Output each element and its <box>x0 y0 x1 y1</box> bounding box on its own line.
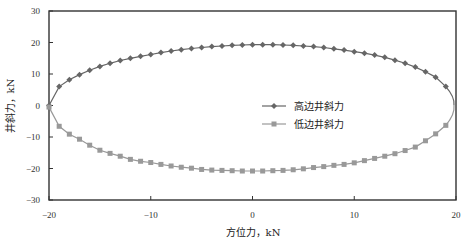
data-point-diamond <box>402 60 408 66</box>
x-tick-label: 0 <box>250 210 255 220</box>
x-tick-label: 20 <box>452 210 462 220</box>
data-point-diamond <box>341 47 347 53</box>
data-point-square <box>97 148 102 153</box>
data-point-square <box>352 160 357 165</box>
data-point-diamond <box>372 52 378 58</box>
y-tick-label: 0 <box>36 101 41 111</box>
data-point-square <box>362 158 367 163</box>
data-point-diamond <box>270 42 276 48</box>
data-point-square <box>209 168 214 173</box>
data-point-diamond <box>127 55 133 61</box>
chart: 3020100−10−20−30−20−1001020 高边井斜力低边井斜力 方… <box>0 0 467 250</box>
data-point-diamond <box>280 42 286 48</box>
data-point-square <box>179 165 184 170</box>
data-point-square <box>372 156 377 161</box>
data-point-square <box>331 163 336 168</box>
data-point-square <box>423 138 428 143</box>
data-point-diamond <box>199 45 205 51</box>
data-point-square <box>301 166 306 171</box>
legend-marker-diamond <box>271 103 277 109</box>
data-point-diamond <box>422 69 428 75</box>
legend-label: 低边井斜力 <box>294 118 344 130</box>
data-point-diamond <box>361 50 367 56</box>
data-point-diamond <box>158 50 164 56</box>
data-point-square <box>77 137 82 142</box>
data-point-diamond <box>351 49 357 55</box>
data-point-diamond <box>229 42 235 48</box>
data-point-square <box>169 163 174 168</box>
data-point-square <box>57 124 62 129</box>
data-point-diamond <box>117 57 123 63</box>
data-point-square <box>433 131 438 136</box>
data-point-diamond <box>148 51 154 57</box>
data-point-square <box>291 167 296 172</box>
data-point-square <box>87 143 92 148</box>
data-point-diamond <box>260 42 266 48</box>
series-layer <box>46 42 454 174</box>
data-point-diamond <box>239 42 245 48</box>
data-point-diamond <box>138 53 144 59</box>
data-point-diamond <box>300 43 306 49</box>
data-point-square <box>138 159 143 164</box>
data-point-square <box>199 167 204 172</box>
legend: 高边井斜力低边井斜力 <box>262 100 344 130</box>
data-point-square <box>311 165 316 170</box>
series-line-low-side <box>49 106 454 172</box>
axis-ticks: 3020100−10−20−30−20−1001020 <box>26 6 461 220</box>
y-tick-label: −30 <box>26 195 41 205</box>
data-point-square <box>281 168 286 173</box>
data-point-diamond <box>77 72 83 78</box>
x-tick-label: −10 <box>144 210 159 220</box>
data-point-diamond <box>311 44 317 50</box>
data-point-square <box>250 169 255 174</box>
legend-marker-square <box>272 122 277 127</box>
y-axis-label: 井斜力，kN <box>4 78 16 133</box>
data-point-diamond <box>168 48 174 54</box>
data-point-square <box>158 162 163 167</box>
data-point-square <box>413 145 418 150</box>
data-point-square <box>118 154 123 159</box>
data-point-square <box>67 132 72 137</box>
data-point-diamond <box>87 67 93 73</box>
data-point-diamond <box>188 45 194 51</box>
data-point-square <box>342 162 347 167</box>
data-point-square <box>148 160 153 165</box>
data-point-square <box>443 123 448 128</box>
data-point-square <box>47 105 52 110</box>
data-point-diamond <box>382 54 388 60</box>
data-point-square <box>108 151 113 156</box>
y-tick-label: −10 <box>26 132 41 142</box>
x-axis-label: 方位力，kN <box>226 226 281 238</box>
data-point-square <box>189 166 194 171</box>
data-point-square <box>321 164 326 169</box>
y-tick-label: 10 <box>31 69 41 79</box>
series-line-high-side <box>49 45 454 106</box>
data-point-square <box>240 169 245 174</box>
x-tick-label: 10 <box>350 210 360 220</box>
data-point-diamond <box>290 42 296 48</box>
y-tick-label: 30 <box>31 6 41 16</box>
data-point-square <box>128 157 133 162</box>
data-point-square <box>270 168 275 173</box>
x-tick-label: −20 <box>42 210 57 220</box>
data-point-diamond <box>178 47 184 53</box>
y-tick-label: −20 <box>26 164 41 174</box>
legend-label: 高边井斜力 <box>294 100 344 112</box>
data-point-square <box>392 151 397 156</box>
data-point-square <box>403 148 408 153</box>
data-point-diamond <box>321 45 327 51</box>
data-point-square <box>260 169 265 174</box>
data-point-diamond <box>331 46 337 52</box>
data-point-diamond <box>250 42 256 48</box>
data-point-square <box>219 168 224 173</box>
data-point-diamond <box>392 57 398 63</box>
data-point-diamond <box>97 63 103 69</box>
data-point-diamond <box>209 44 215 50</box>
y-tick-label: 20 <box>31 38 41 48</box>
data-point-diamond <box>107 60 113 66</box>
data-point-diamond <box>219 43 225 49</box>
data-point-square <box>230 168 235 173</box>
data-point-square <box>382 154 387 159</box>
data-point-diamond <box>412 64 418 70</box>
